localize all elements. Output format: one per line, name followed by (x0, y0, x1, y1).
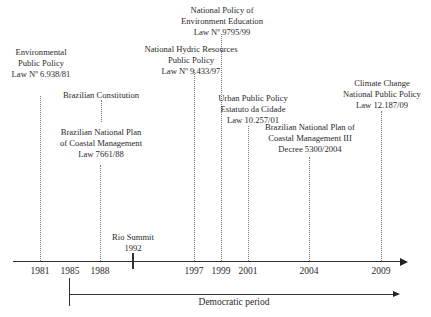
event-line: 1992 (112, 243, 154, 254)
event-1999: National Policy of Environment Education… (181, 5, 263, 38)
rio-summit-tick (132, 253, 134, 269)
timeline-arrow-icon (400, 258, 408, 266)
event-line: Public Policy (144, 55, 237, 66)
event-line: Environment Education (181, 16, 263, 27)
event-line: Law Nº 6.938/81 (12, 69, 71, 80)
timeline-axis (13, 261, 403, 262)
democratic-period-label: Democratic period (199, 297, 270, 307)
connector-2001 (248, 126, 249, 261)
year-1988: 1988 (91, 266, 110, 276)
connector-1981 (40, 96, 41, 261)
event-line: Climate Change (343, 78, 421, 89)
connector-1988 (100, 165, 101, 261)
year-2009: 2009 (372, 266, 391, 276)
event-line: Law Nº 9795/99 (181, 27, 263, 38)
event-1981: Environmental Public Policy Law Nº 6.938… (12, 47, 71, 80)
year-2001: 2001 (239, 266, 258, 276)
event-line: National Hydric Resources (144, 44, 237, 55)
event-line: Law 12.187/09 (343, 100, 421, 111)
event-2009: Climate Change National Public Policy La… (343, 78, 421, 111)
event-line: Urban Public Policy (218, 93, 288, 104)
event-line: Law 7661/88 (60, 149, 142, 160)
event-1988-coastal: Brazilian National Plan of Coastal Manag… (60, 127, 142, 160)
year-1999: 1999 (212, 266, 231, 276)
event-constitution: Brazilian Constitution (63, 90, 139, 101)
event-line: Environmental (12, 47, 71, 58)
event-line: Decree 5300/2004 (265, 144, 355, 155)
event-1997: National Hydric Resources Public Policy … (144, 44, 237, 77)
democratic-period-arrow-icon (393, 291, 400, 297)
event-line: Brazilian National Plan (60, 127, 142, 138)
event-line: Brazilian National Plan of (265, 122, 355, 133)
event-2004: Brazilian National Plan of Coastal Manag… (265, 122, 355, 155)
democratic-period-line (70, 294, 395, 295)
year-1985: 1985 (61, 266, 80, 276)
democratic-period-start (69, 278, 70, 306)
event-line: Rio Summit (112, 232, 154, 243)
event-line: Coastal Management III (265, 133, 355, 144)
event-line: Public Policy (12, 58, 71, 69)
connector-2004 (309, 157, 310, 261)
event-line: of Coastal Management (60, 138, 142, 149)
event-line: National Public Policy (343, 89, 421, 100)
year-1981: 1981 (31, 266, 50, 276)
event-line: Brazilian Constitution (63, 90, 139, 101)
connector-1988-constitution (101, 100, 102, 122)
connector-1997 (194, 70, 195, 261)
event-line: Estatuto da Cidade (218, 104, 288, 115)
year-2004: 2004 (300, 266, 319, 276)
event-line: National Policy of (181, 5, 263, 16)
event-rio-summit: Rio Summit 1992 (112, 232, 154, 254)
year-1997: 1997 (185, 266, 204, 276)
event-line: Law Nº 9.433/97 (144, 66, 237, 77)
connector-2009 (381, 111, 382, 261)
